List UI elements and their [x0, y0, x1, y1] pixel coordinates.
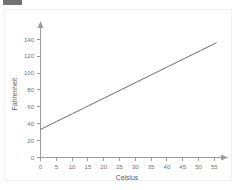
y-tick-label-60: 60: [27, 104, 34, 110]
celsius-fahrenheit-chart: 0 20 40 60 80 100 120 140: [5, 10, 233, 182]
x-tick-label-30: 30: [132, 164, 139, 170]
y-tick-label-0: 0: [31, 155, 35, 161]
y-tick-label-80: 80: [27, 87, 34, 93]
x-tick-label-55: 55: [211, 164, 218, 170]
y-tick-label-120: 120: [24, 53, 35, 59]
y-tick-label-140: 140: [24, 37, 35, 43]
y-axis-arrow-icon: [38, 21, 44, 28]
y-tick-label-20: 20: [27, 138, 34, 144]
x-tick-label-10: 10: [69, 164, 76, 170]
y-tick-label-40: 40: [27, 121, 34, 127]
chart-card: 0 20 40 60 80 100 120 140: [4, 9, 232, 181]
x-tick-label-25: 25: [116, 164, 123, 170]
x-tick-label-20: 20: [100, 164, 107, 170]
y-axis-ticks: [37, 39, 41, 157]
x-axis-title: Celsius: [116, 174, 139, 181]
x-axis-arrow-icon: [221, 155, 228, 161]
data-series-line: [41, 43, 217, 130]
x-tick-label-40: 40: [164, 164, 171, 170]
x-tick-label-0: 0: [39, 164, 43, 170]
x-tick-label-35: 35: [148, 164, 155, 170]
screenshot-root: watermark-bar 0 20 40: [0, 0, 236, 190]
y-axis-title: Fahrenheit: [11, 78, 18, 111]
x-axis-ticks: [41, 158, 215, 162]
watermark-mark: watermark-bar: [3, 0, 22, 5]
x-tick-label-45: 45: [179, 164, 186, 170]
x-tick-label-50: 50: [195, 164, 202, 170]
x-tick-label-15: 15: [85, 164, 92, 170]
y-tick-label-100: 100: [24, 70, 35, 76]
x-tick-label-5: 5: [55, 164, 59, 170]
